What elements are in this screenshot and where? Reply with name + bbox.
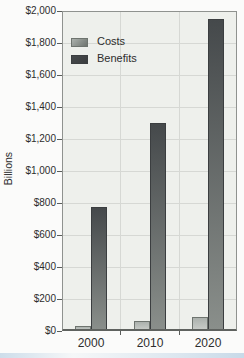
cost-benefit-bar-chart: Billions CostsBenefits 200020102020$0$20… [0,0,244,358]
y-tick-mark-7 [57,107,62,108]
y-tick-label-1600: $1,600 [0,69,56,81]
y-tick-label-800: $800 [0,197,56,209]
bar-costs-2020 [192,317,208,331]
chart-legend: CostsBenefits [71,36,137,70]
bar-costs-2000 [75,326,91,331]
legend-label-costs: Costs [97,36,125,47]
y-tick-mark-3 [57,235,62,236]
bar-costs-2010 [134,321,150,331]
y-tick-mark-9 [57,43,62,44]
bar-benefits-2000 [91,207,107,331]
x-tick-mark-1 [120,331,121,335]
bar-benefits-2010 [150,123,166,331]
gridline-v-2 [179,11,180,331]
y-tick-mark-0 [57,331,62,332]
y-tick-label-400: $400 [0,261,56,273]
bar-benefits-2020 [208,19,224,331]
y-tick-mark-10 [57,11,62,12]
legend-label-benefits: Benefits [97,53,137,64]
y-tick-mark-6 [57,139,62,140]
y-tick-label-2000: $2,000 [0,5,56,17]
legend-item-costs: Costs [71,36,137,47]
y-tick-mark-1 [57,299,62,300]
legend-swatch-benefits [71,55,88,64]
x-tick-label-2010: 2010 [128,336,172,350]
y-tick-label-1800: $1,800 [0,37,56,49]
x-tick-label-2020: 2020 [186,336,230,350]
y-tick-label-1000: $1,000 [0,165,56,177]
y-tick-mark-5 [57,171,62,172]
x-tick-label-2000: 2000 [69,336,113,350]
x-tick-mark-2 [179,331,180,335]
y-tick-mark-2 [57,267,62,268]
y-tick-label-1400: $1,400 [0,101,56,113]
y-tick-mark-4 [57,203,62,204]
y-tick-mark-8 [57,75,62,76]
legend-item-benefits: Benefits [71,53,137,64]
page-scan-artifact [0,353,244,358]
y-tick-label-600: $600 [0,229,56,241]
y-tick-label-0: $0 [0,325,56,337]
y-tick-label-200: $200 [0,293,56,305]
y-tick-label-1200: $1,200 [0,133,56,145]
legend-swatch-costs [71,38,88,47]
